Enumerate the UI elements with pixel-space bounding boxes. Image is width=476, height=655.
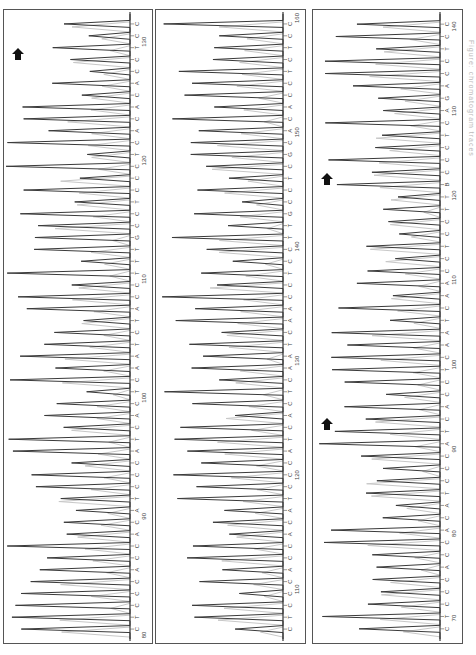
base-call: T xyxy=(444,195,450,199)
base-call: T xyxy=(444,133,450,137)
base-call: C xyxy=(287,92,293,97)
base-call: T xyxy=(444,491,450,495)
base-call: A xyxy=(287,449,293,453)
base-call: C xyxy=(444,145,450,150)
base-call: C xyxy=(134,294,140,299)
base-call: A xyxy=(287,105,293,109)
position-tick-label: 140 xyxy=(294,241,300,252)
base-call: A xyxy=(444,331,450,335)
base-call: C xyxy=(134,626,140,631)
position-tick-label: 110 xyxy=(451,275,457,285)
base-call: C xyxy=(444,416,450,421)
base-call: C xyxy=(134,69,140,74)
base-call: C xyxy=(287,199,293,204)
base-call: C xyxy=(134,187,140,192)
base-call: T xyxy=(134,342,140,346)
base-call: T xyxy=(287,496,293,500)
base-call: A xyxy=(444,503,450,507)
base-call: A xyxy=(287,568,293,572)
base-call: C xyxy=(287,21,293,26)
base-call: C xyxy=(287,543,293,548)
base-call: C xyxy=(134,543,140,548)
base-call: A xyxy=(134,354,140,358)
chromatogram-svg: CTCCCACCACATCCCATCACTCAATCTACCTTTGCCTCCC… xyxy=(4,10,152,643)
base-call: C xyxy=(287,80,293,85)
position-tick-label: 90 xyxy=(141,512,147,519)
base-call: A xyxy=(134,307,140,311)
position-tick-label: 120 xyxy=(294,469,300,480)
base-call: T xyxy=(134,318,140,322)
base-call: C xyxy=(444,71,450,76)
base-call: C xyxy=(134,579,140,584)
base-call: C xyxy=(134,140,140,145)
base-call: C xyxy=(287,116,293,121)
base-call: C xyxy=(134,175,140,180)
base-call: C xyxy=(134,591,140,596)
base-call: T xyxy=(287,342,293,346)
base-call: C xyxy=(444,540,450,545)
arrow-marker-icon xyxy=(12,48,24,60)
chromatogram-panel-3: CTCCCACCACATCCCATCACCTCAATCAACCTCCTTBCCC… xyxy=(312,9,463,644)
base-call: G xyxy=(287,211,293,216)
base-call: A xyxy=(444,84,450,88)
base-call: C xyxy=(134,472,140,477)
position-tick-label: 130 xyxy=(141,36,147,47)
base-call: T xyxy=(134,152,140,156)
base-call: C xyxy=(444,219,450,224)
base-call: C xyxy=(134,555,140,560)
base-call: C xyxy=(444,305,450,310)
base-call: C xyxy=(287,330,293,335)
base-call: T xyxy=(287,69,293,73)
base-call: T xyxy=(134,390,140,394)
position-tick-label: 160 xyxy=(294,12,300,23)
position-tick-label: 120 xyxy=(451,190,457,201)
base-call: C xyxy=(444,268,450,273)
base-call: T xyxy=(444,244,450,248)
base-call: T xyxy=(134,45,140,49)
base-call: T xyxy=(287,271,293,275)
base-call: T xyxy=(134,247,140,251)
base-call: A xyxy=(444,343,450,347)
position-tick-label: 90 xyxy=(451,445,457,452)
base-call: C xyxy=(287,401,293,406)
position-tick-label: 130 xyxy=(451,105,457,116)
base-call: C xyxy=(444,120,450,125)
base-call: C xyxy=(134,401,140,406)
base-call: T xyxy=(287,615,293,619)
base-call: C xyxy=(287,425,293,430)
base-call: A xyxy=(134,413,140,417)
base-call: A xyxy=(134,366,140,370)
base-call: C xyxy=(287,472,293,477)
base-call: C xyxy=(287,163,293,168)
base-call: A xyxy=(287,354,293,358)
base-call: C xyxy=(134,460,140,465)
base-call: T xyxy=(134,437,140,441)
base-call: A xyxy=(287,366,293,370)
base-call: C xyxy=(287,282,293,287)
base-call: A xyxy=(287,508,293,512)
base-call: C xyxy=(444,169,450,174)
base-call: C xyxy=(287,555,293,560)
base-call: T xyxy=(444,368,450,372)
base-call: C xyxy=(287,247,293,252)
base-call: C xyxy=(287,626,293,631)
base-call: C xyxy=(287,579,293,584)
base-call: C xyxy=(134,603,140,608)
base-call: A xyxy=(444,528,450,532)
base-call: T xyxy=(287,437,293,441)
base-call: C xyxy=(287,377,293,382)
position-tick-label: 110 xyxy=(141,274,147,284)
position-tick-label: 120 xyxy=(141,155,147,166)
base-call: A xyxy=(444,109,450,113)
base-call: T xyxy=(134,200,140,204)
base-call: C xyxy=(134,282,140,287)
base-call: A xyxy=(444,442,450,446)
base-call: C xyxy=(134,330,140,335)
base-call: C xyxy=(287,187,293,192)
base-call: T xyxy=(134,259,140,263)
base-call: A xyxy=(134,105,140,109)
base-call: C xyxy=(287,294,293,299)
base-call: C xyxy=(134,57,140,62)
position-tick-label: 110 xyxy=(294,584,300,594)
position-tick-label: 140 xyxy=(451,21,457,32)
